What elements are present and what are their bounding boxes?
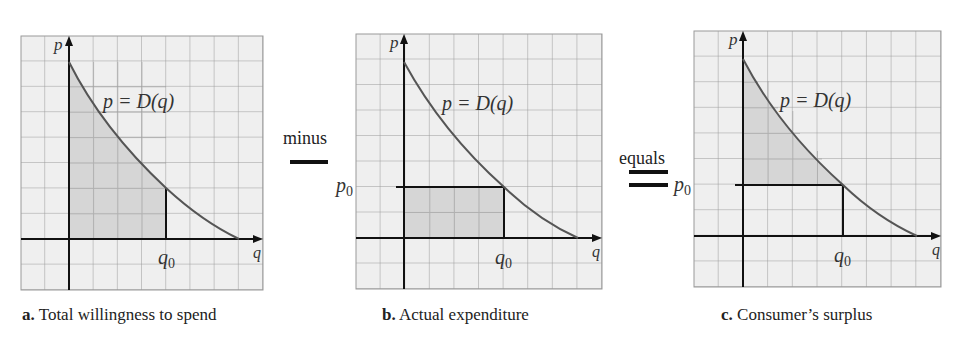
p0-label: p0 — [334, 174, 353, 199]
x-axis-label: q — [932, 241, 940, 259]
y-axis-label: p — [728, 30, 738, 49]
panel-b-graph: p q p = D(q) p0 q0 — [356, 34, 602, 289]
minus-label: minus — [283, 128, 327, 149]
y-axis-label: p — [53, 35, 63, 54]
equals-label: equals — [619, 148, 665, 169]
curve-label: p = D(q) — [101, 90, 175, 113]
caption-b-text: Actual expenditure — [399, 305, 529, 324]
curve-label: p = D(q) — [440, 92, 514, 115]
equals-symbol-bottom-icon — [629, 183, 668, 187]
panel-a-total-willingness: p q p = D(q) q0 — [21, 36, 263, 290]
caption-b: b. Actual expenditure — [382, 305, 529, 325]
panel-c-graph: p q p = D(q) p0 q0 — [694, 31, 941, 287]
caption-c-text: Consumer’s surplus — [737, 305, 872, 324]
caption-a-text: Total willingness to spend — [39, 305, 217, 324]
equals-symbol-top-icon — [629, 170, 668, 174]
caption-a: a. Total willingness to spend — [22, 305, 216, 325]
minus-symbol-icon — [290, 160, 328, 164]
panel-a-graph: p q p = D(q) q0 — [21, 36, 263, 290]
caption-b-letter: b. — [382, 305, 396, 324]
y-axis-label: p — [389, 33, 399, 52]
x-axis-label: q — [592, 243, 600, 261]
curve-label: p = D(q) — [778, 89, 852, 112]
panel-c-consumer-surplus: p q p = D(q) p0 q0 — [694, 31, 941, 287]
panel-b-actual-expenditure: p q p = D(q) p0 q0 — [356, 34, 602, 289]
grid-background — [356, 34, 602, 289]
p0-label: p0 — [672, 173, 691, 198]
caption-c: c. Consumer’s surplus — [721, 305, 872, 325]
caption-c-letter: c. — [721, 305, 733, 324]
caption-a-letter: a. — [22, 305, 35, 324]
x-axis-label: q — [253, 244, 261, 262]
